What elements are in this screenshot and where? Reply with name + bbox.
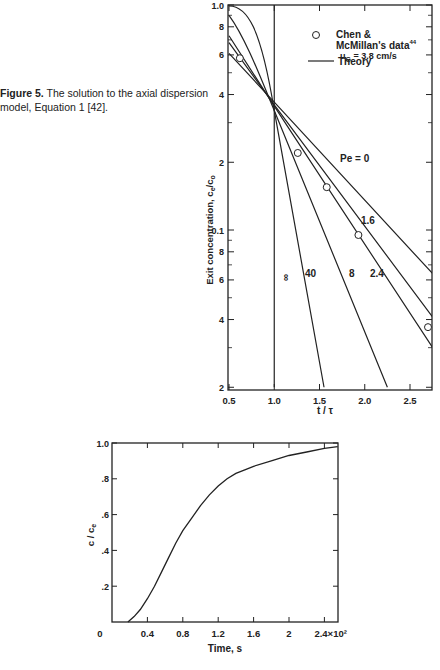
y-tick-label: 4 — [219, 90, 224, 100]
data-point-marker — [294, 149, 301, 156]
data-point-marker — [355, 232, 362, 239]
series-label-Pe=2.4: 2.4 — [370, 268, 384, 279]
y-tick-label: 2 — [219, 158, 224, 168]
y-tick-label: .8 — [101, 474, 109, 484]
x-tick-label: 2 — [286, 628, 291, 639]
chart1-legend: Chen & McMillan's data44 uG = 3.8 cm/s T… — [308, 29, 417, 67]
legend-theory-label: Theory — [338, 56, 372, 67]
exit-concentration-chart: 0.51.01.52.02.51.086420.18642 Pe = 01.62… — [0, 0, 440, 420]
legend-data-label-2: McMillan's data44 — [336, 39, 417, 51]
x-tick-label: 0 — [97, 628, 102, 639]
series-label-Pe=8: 8 — [349, 268, 355, 279]
y-tick-label: 2 — [219, 383, 224, 393]
chart1-theory-lines — [229, 5, 433, 387]
y-tick-label: 1.0 — [96, 439, 109, 449]
chart1-data-points — [236, 55, 431, 331]
y-tick-label: 4 — [219, 315, 224, 325]
y-tick-label: 1.0 — [211, 1, 224, 11]
data-point-marker — [323, 184, 330, 191]
y-tick-label: 8 — [219, 247, 224, 257]
y-tick-label: 8 — [219, 22, 224, 32]
x-tick-label: 1.2 — [212, 628, 225, 639]
y-tick-label: .4 — [101, 546, 109, 556]
legend-data-label-1: Chen & — [336, 29, 371, 40]
x-tick-label: 1.0 — [268, 395, 281, 406]
series-label-Pe=0: Pe = 0 — [340, 153, 370, 164]
x-tick-label: 0.8 — [176, 628, 189, 639]
data-point-marker — [425, 324, 432, 331]
series-label-Pe=inf: ∞ — [281, 274, 292, 281]
chart2-y-label: c / ce — [85, 524, 97, 547]
series-label-Pe=40: 40 — [305, 268, 317, 279]
y-tick-label: .2 — [101, 582, 109, 592]
legend-marker-icon — [313, 32, 320, 39]
y-tick-label: 6 — [219, 275, 224, 285]
chart2-ticks: 00.40.81.21.622.4×10².2.4.6.81.0 — [96, 439, 346, 640]
data-point-marker — [236, 55, 243, 62]
x-tick-label: 2.4×10² — [314, 628, 347, 639]
chart2-frame — [112, 443, 338, 622]
chart2-x-label: Time, s — [208, 643, 243, 654]
y-tick-label: 6 — [219, 50, 224, 60]
y-tick-label: .6 — [101, 510, 109, 520]
theory-line-Pe=0 — [229, 53, 433, 273]
x-tick-label: 0.5 — [222, 395, 236, 406]
x-tick-label: 1.6 — [247, 628, 260, 639]
x-tick-label: 2.0 — [358, 395, 371, 406]
chart1-x-label: t / τ — [317, 405, 334, 416]
chart1-frame — [228, 5, 432, 390]
series-label-Pe=1.6: 1.6 — [361, 215, 375, 226]
chart1-y-label: Exit concentration, ce/co — [204, 175, 216, 285]
x-tick-label: 0.4 — [141, 628, 155, 639]
theory-line-Pe=2.4 — [229, 36, 433, 348]
chart1-series-labels: Pe = 01.62.4840∞ — [281, 153, 384, 281]
chart2-response-curve — [128, 447, 338, 622]
x-tick-label: 2.5 — [403, 395, 417, 406]
theory-line-Pe=8 — [229, 15, 387, 387]
response-curve-chart: 00.40.81.21.622.4×10².2.4.6.81.0 Time, s… — [0, 420, 440, 670]
